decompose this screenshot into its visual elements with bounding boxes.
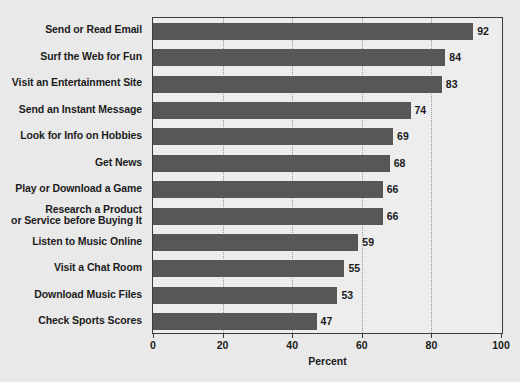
x-tick-mark-20: [223, 334, 224, 338]
bar-value-label: 68: [394, 155, 406, 172]
bar: [153, 234, 358, 251]
bar: [153, 76, 442, 93]
bar: [153, 49, 445, 66]
category-label: Send an Instant Message: [0, 104, 142, 116]
category-label: Listen to Music Online: [0, 236, 142, 248]
x-tick-mark-0: [153, 334, 154, 338]
bar-value-label: 66: [387, 208, 399, 225]
bar-value-label: 83: [446, 76, 458, 93]
x-tick-label-80: 80: [426, 339, 438, 351]
category-label: Look for Info on Hobbies: [0, 130, 142, 142]
bar-value-label: 92: [477, 23, 489, 40]
bar: [153, 260, 344, 277]
bar: [153, 287, 337, 304]
bar: [153, 208, 383, 225]
bar-value-label: 59: [362, 234, 374, 251]
category-label-line: Check Sports Scores: [0, 315, 142, 327]
category-label-line: Send or Read Email: [0, 24, 142, 36]
category-label: Research a Productor Service before Buyi…: [0, 204, 142, 227]
bar: [153, 128, 393, 145]
bar: [153, 155, 390, 172]
x-tick-mark-100: [501, 334, 502, 338]
bar-chart: Send or Read EmailSurf the Web for FunVi…: [0, 0, 520, 382]
x-tick-label-40: 40: [286, 339, 298, 351]
category-label: Play or Download a Game: [0, 183, 142, 195]
category-label: Send or Read Email: [0, 24, 142, 36]
bar-value-label: 84: [449, 49, 461, 66]
category-label: Download Music Files: [0, 289, 142, 301]
category-label-line: Surf the Web for Fun: [0, 51, 142, 63]
category-label: Visit an Entertainment Site: [0, 77, 142, 89]
x-tick-label-100: 100: [492, 339, 510, 351]
category-label: Surf the Web for Fun: [0, 51, 142, 63]
bar: [153, 313, 317, 330]
plot-area: 928483746968666659555347: [152, 17, 503, 334]
bar-value-label: 53: [341, 287, 353, 304]
category-label-line: Look for Info on Hobbies: [0, 130, 142, 142]
bar: [153, 102, 411, 119]
category-label-line: Listen to Music Online: [0, 236, 142, 248]
bar-value-label: 69: [397, 128, 409, 145]
bar: [153, 181, 383, 198]
category-label-line: Play or Download a Game: [0, 183, 142, 195]
category-label: Get News: [0, 157, 142, 169]
category-axis-labels: Send or Read EmailSurf the Web for FunVi…: [0, 17, 147, 334]
bar-value-label: 47: [321, 313, 333, 330]
bars-layer: 928483746968666659555347: [153, 18, 502, 333]
category-label-line: or Service before Buying It: [0, 215, 142, 227]
x-tick-label-0: 0: [150, 339, 156, 351]
x-axis: 020406080100: [152, 334, 503, 356]
category-label: Visit a Chat Room: [0, 262, 142, 274]
category-label-line: Visit a Chat Room: [0, 262, 142, 274]
bar: [153, 23, 473, 40]
x-tick-label-60: 60: [356, 339, 368, 351]
category-label-line: Get News: [0, 157, 142, 169]
x-tick-mark-60: [362, 334, 363, 338]
category-label-line: Send an Instant Message: [0, 104, 142, 116]
bar-value-label: 66: [387, 181, 399, 198]
x-tick-mark-40: [292, 334, 293, 338]
x-axis-title: Percent: [152, 355, 503, 367]
category-label: Check Sports Scores: [0, 315, 142, 327]
x-tick-mark-80: [431, 334, 432, 338]
category-label-line: Download Music Files: [0, 289, 142, 301]
category-label-line: Visit an Entertainment Site: [0, 77, 142, 89]
x-tick-label-20: 20: [217, 339, 229, 351]
bar-value-label: 55: [348, 260, 360, 277]
bar-value-label: 74: [415, 102, 427, 119]
